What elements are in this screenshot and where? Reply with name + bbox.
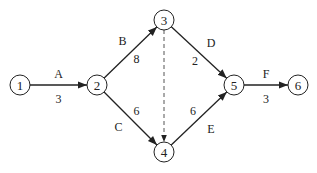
activity-label: F [263,67,270,81]
duration-label: 3 [56,92,62,106]
duration-label: 6 [190,104,196,118]
activity-label: D [207,36,216,50]
node-label: 3 [161,13,168,28]
activity-arrow-b [104,27,157,78]
activity-label: C [114,120,122,134]
node-label: 5 [231,78,238,93]
activity-label: B [118,34,126,48]
duration-label: 2 [192,54,198,68]
network-diagram: A3B8C6D2E6F3 123456 [0,0,317,173]
activity-label: A [54,67,63,81]
node-4: 4 [154,142,174,162]
duration-label: 3 [263,92,269,106]
activity-arrow-e [171,92,227,145]
node-1: 1 [10,75,30,95]
node-5: 5 [224,75,244,95]
node-label: 1 [17,78,24,93]
node-label: 2 [94,78,101,93]
node-2: 2 [87,75,107,95]
activity-arrow-d [171,27,226,78]
duration-label: 8 [134,52,140,66]
node-label: 4 [161,145,168,160]
activity-arrow-c [104,92,157,145]
node-6: 6 [288,75,308,95]
duration-label: 6 [134,104,140,118]
activity-label: E [207,122,214,136]
node-3: 3 [154,10,174,30]
node-label: 6 [295,78,302,93]
